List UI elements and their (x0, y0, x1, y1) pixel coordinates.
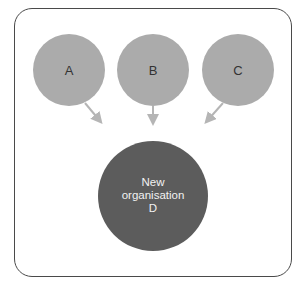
label-d: New organisation D (103, 176, 203, 215)
label-d-line3: D (103, 202, 203, 215)
label-a: A (54, 63, 84, 78)
label-d-line2: organisation (103, 189, 203, 202)
merger-diagram (0, 0, 304, 285)
label-c: C (223, 63, 253, 78)
label-d-line1: New (103, 176, 203, 189)
label-b: B (138, 63, 168, 78)
arrow-a-to-d (85, 103, 100, 121)
arrow-c-to-d (207, 103, 223, 121)
